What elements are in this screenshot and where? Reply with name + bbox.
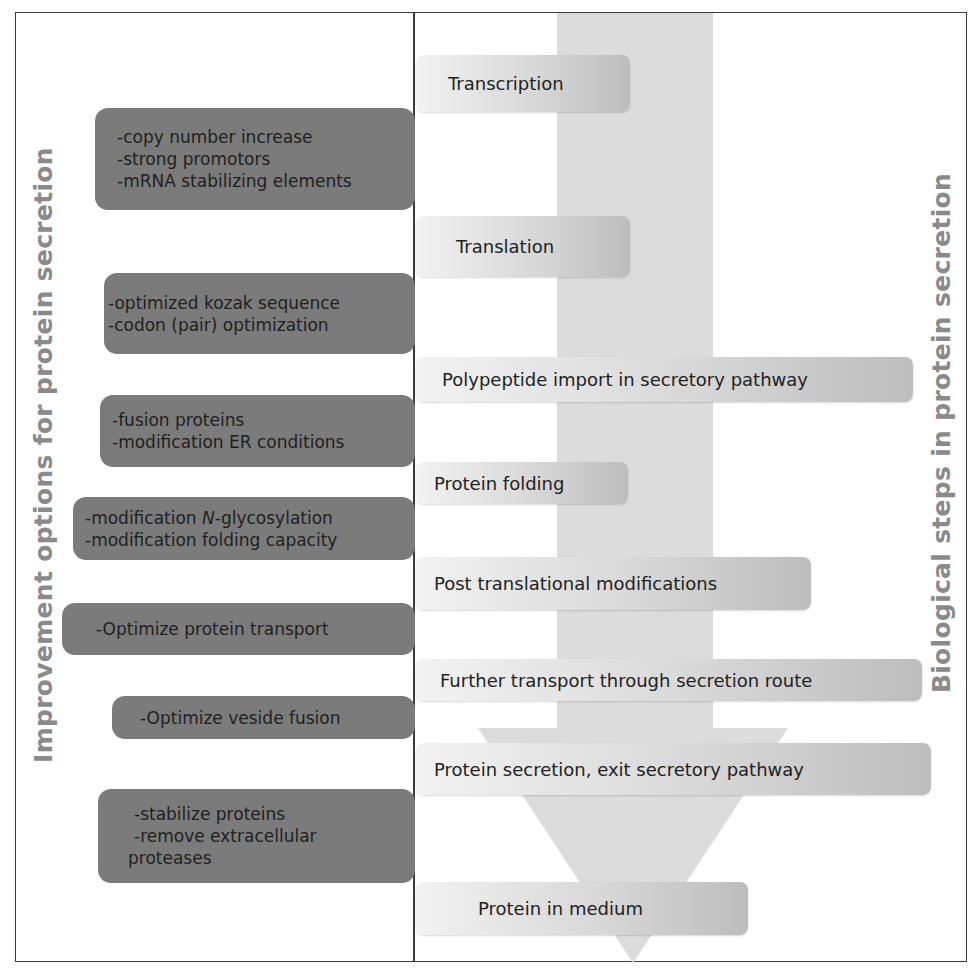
option-line: -Optimize protein transport — [96, 618, 415, 640]
step-label: Protein secretion, exit secretory pathwa… — [434, 759, 804, 780]
step-protein-in-medium: Protein in medium — [416, 882, 748, 935]
step-further-transport: Further transport through secretion rout… — [416, 659, 922, 701]
option-box-secretion: -stabilize proteins -remove extracellula… — [98, 789, 415, 883]
step-label: Polypeptide import in secretory pathway — [442, 369, 808, 390]
italic-n: N — [202, 508, 215, 528]
option-line: -stabilize proteins — [134, 803, 415, 825]
step-polypeptide-import: Polypeptide import in secretory pathway — [416, 357, 913, 402]
option-line: -mRNA stabilizing elements — [117, 170, 415, 192]
step-translation: Translation — [416, 216, 630, 277]
step-transcription: Transcription — [416, 55, 630, 112]
step-label: Protein in medium — [478, 898, 643, 919]
step-label: Protein folding — [434, 473, 564, 494]
option-box-transport: -Optimize veside fusion — [112, 696, 415, 739]
option-box-translation: -optimized kozak sequence -codon (pair) … — [104, 273, 415, 354]
option-line: -modification N-glycosylation — [85, 507, 415, 529]
step-label: Transcription — [448, 73, 564, 94]
option-line: -Optimize veside fusion — [140, 707, 415, 729]
step-label: Post translational modifications — [434, 573, 717, 594]
option-line: -codon (pair) optimization — [108, 314, 415, 336]
option-line: -modification folding capacity — [85, 529, 415, 551]
option-box-import: -fusion proteins -modification ER condit… — [100, 395, 415, 467]
step-label: Translation — [456, 236, 554, 257]
option-line: -copy number increase — [117, 126, 415, 148]
option-line: -strong promotors — [117, 148, 415, 170]
right-column-title: Biological steps in protein secretion — [927, 173, 956, 693]
option-line: -remove extracellular — [134, 825, 415, 847]
option-line: proteases — [128, 847, 415, 869]
left-column-title: Improvement options for protein secretio… — [29, 147, 58, 763]
step-protein-secretion: Protein secretion, exit secretory pathwa… — [416, 743, 931, 795]
option-box-transcription: -copy number increase -strong promotors … — [95, 108, 415, 210]
step-protein-folding: Protein folding — [416, 462, 628, 504]
option-box-modifications: -Optimize protein transport — [62, 603, 415, 655]
option-line: -optimized kozak sequence — [108, 292, 415, 314]
option-box-folding: -modification N-glycosylation -modificat… — [73, 497, 415, 560]
step-post-translational: Post translational modifications — [416, 557, 811, 610]
option-line: -fusion proteins — [112, 409, 415, 431]
step-label: Further transport through secretion rout… — [440, 670, 812, 691]
option-line: -modification ER conditions — [112, 431, 415, 453]
